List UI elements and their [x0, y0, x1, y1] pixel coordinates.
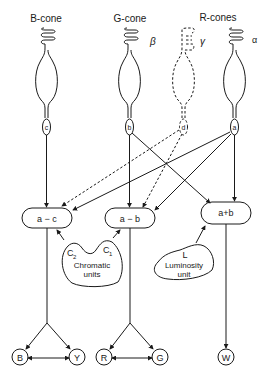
svg-text:W: W [222, 353, 231, 363]
svg-text:B: B [17, 353, 23, 363]
gamma-label: γ [200, 36, 206, 47]
output-lines [26, 224, 226, 358]
svg-text:a: a [233, 124, 237, 131]
b-cone: c [36, 28, 58, 135]
svg-text:units: units [84, 270, 101, 279]
svg-text:d: d [182, 124, 186, 131]
r-cone-gamma: d γ [173, 28, 206, 135]
svg-text:Chromatic: Chromatic [74, 261, 110, 270]
connections [47, 130, 235, 210]
unit-a-minus-c: a − c [22, 208, 72, 228]
svg-text:a − b: a − b [120, 214, 140, 224]
color-vision-diagram: B-cone G-cone R-cones c b β d γ a α [0, 0, 266, 380]
output-G: G [152, 349, 168, 365]
output-R: R [96, 349, 112, 365]
output-Y: Y [69, 349, 85, 365]
b-cone-label: B-cone [30, 13, 62, 24]
svg-text:b: b [128, 124, 132, 131]
svg-text:Y: Y [74, 353, 80, 363]
chromatic-units-blob: C 2 C 1 Chromatic units [57, 230, 122, 287]
svg-text:unit: unit [178, 270, 192, 279]
unit-a-minus-b: a − b [105, 208, 155, 228]
svg-text:L: L [182, 250, 187, 260]
output-B: B [12, 349, 28, 365]
svg-text:a − c: a − c [37, 214, 57, 224]
luminosity-unit-blob: L Luminosity unit [154, 226, 213, 280]
svg-text:Luminosity: Luminosity [165, 261, 203, 270]
output-W: W [218, 349, 234, 365]
svg-text:2: 2 [73, 254, 77, 260]
alpha-label: α [252, 35, 257, 45]
svg-text:G: G [156, 353, 163, 363]
beta-label: β [149, 36, 156, 47]
svg-text:R: R [101, 353, 108, 363]
r-cone-alpha: a α [224, 28, 258, 135]
svg-text:a+b: a+b [218, 208, 233, 218]
svg-text:c: c [45, 124, 49, 131]
svg-text:1: 1 [109, 251, 113, 257]
unit-a-plus-b: a+b [201, 202, 251, 224]
g-cone-label: G-cone [114, 13, 147, 24]
g-cone: b β [119, 28, 156, 135]
r-cones-label: R-cones [199, 12, 236, 23]
